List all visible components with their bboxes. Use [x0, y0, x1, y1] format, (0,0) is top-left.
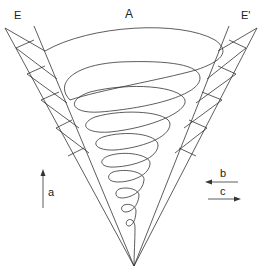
label-E-prime: E' — [241, 10, 250, 21]
label-a: a — [48, 187, 54, 198]
spiral-curve — [45, 28, 223, 266]
label-A: A — [125, 8, 133, 20]
label-c: c — [220, 186, 226, 197]
label-b: b — [220, 168, 226, 179]
cone-spiral-diagram — [0, 0, 261, 272]
label-E: E — [14, 10, 21, 21]
